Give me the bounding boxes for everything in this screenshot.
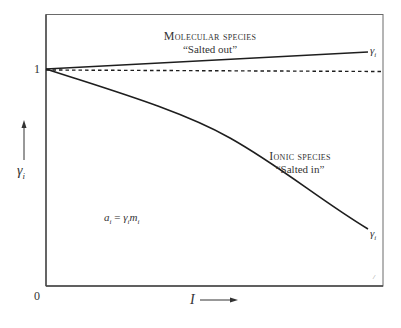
activity-equation: ai = γimi xyxy=(104,211,139,226)
molecular-species-title: Molecular species xyxy=(164,29,257,44)
y-tick-one: 1 xyxy=(34,62,40,77)
ionic-species-title: Ionic species xyxy=(269,149,331,164)
reference-line-gamma-one xyxy=(46,70,383,72)
y-tick-zero: 0 xyxy=(34,289,40,304)
plot-frame xyxy=(46,15,383,287)
eq-equals: = xyxy=(111,211,123,223)
y-axis-subscript: i xyxy=(23,171,26,181)
eq-m-sub: i xyxy=(137,218,139,226)
y-axis-label: γi xyxy=(17,163,25,181)
molecular-species-subtitle: “Salted out” xyxy=(183,43,237,55)
ionic-species-subtitle: “Salted in” xyxy=(276,163,325,175)
x-axis-label: I xyxy=(190,292,195,308)
corner-mark: / xyxy=(373,273,375,281)
ionic-end-label: γi xyxy=(370,227,376,242)
molecular-end-label: γi xyxy=(370,44,376,59)
y-axis-arrow-icon xyxy=(22,120,27,128)
x-axis-arrow-icon xyxy=(230,298,238,303)
ionic-end-subscript: i xyxy=(374,234,376,242)
molecular-end-subscript: i xyxy=(374,51,376,59)
